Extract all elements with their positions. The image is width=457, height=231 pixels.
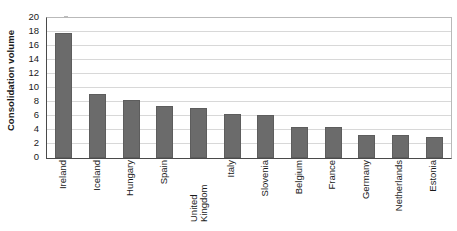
- bar[interactable]: [392, 135, 409, 158]
- bar[interactable]: [89, 94, 106, 158]
- bar[interactable]: [325, 127, 342, 158]
- bar[interactable]: [426, 137, 443, 158]
- bar-chart: Consolidation volume 02468101214161820 I…: [0, 0, 457, 231]
- y-tick-label: 16: [28, 40, 39, 50]
- bar[interactable]: [156, 106, 173, 158]
- bars-layer: [47, 18, 451, 158]
- y-tick-label: 12: [28, 68, 39, 78]
- x-axis-label-text: Estonia: [428, 160, 438, 192]
- bar[interactable]: [224, 114, 241, 158]
- x-axis-category-labels: IrelandIcelandHungarySpainUnited Kingdom…: [46, 160, 452, 231]
- bar[interactable]: [291, 127, 308, 159]
- y-tick-label: 2: [34, 138, 39, 148]
- bar[interactable]: [190, 108, 207, 158]
- y-tick-label: 14: [28, 54, 39, 64]
- y-tick-label: 18: [28, 26, 39, 36]
- y-tick-label: 6: [34, 110, 39, 120]
- x-axis-label: Estonia: [399, 160, 457, 228]
- bar[interactable]: [358, 135, 375, 158]
- plot-area: [46, 17, 452, 159]
- y-axis-title: Consolidation volume: [0, 0, 22, 160]
- y-tick-label: 10: [28, 82, 39, 92]
- bar[interactable]: [257, 115, 274, 158]
- bar[interactable]: [123, 100, 140, 158]
- bar[interactable]: [55, 33, 72, 158]
- y-tick-label: 4: [34, 124, 39, 134]
- y-tick-label: 20: [28, 12, 39, 22]
- y-tick-label: 8: [34, 96, 39, 106]
- y-axis-tick-labels: 02468101214161820: [22, 11, 42, 163]
- y-axis-title-label: Consolidation volume: [6, 29, 17, 130]
